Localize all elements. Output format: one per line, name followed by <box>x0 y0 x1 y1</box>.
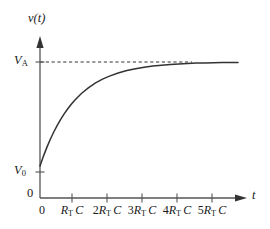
y-axis-arrowhead <box>36 36 43 48</box>
y-tick-label-v0: V0 <box>14 164 26 177</box>
x-tick-capacitance-symbol: C <box>181 203 191 217</box>
x-axis-arrowhead <box>235 194 247 201</box>
y-axis-label: v(t) <box>28 12 45 25</box>
x-tick-label-5: 5RT C <box>198 204 227 216</box>
x-axis-label: t <box>252 189 255 202</box>
response-curve <box>40 62 238 166</box>
x-tick-label-3: 3RT C <box>128 204 157 216</box>
x-axis-origin-label: 0 <box>39 204 45 216</box>
x-tick-label-1: RT C <box>61 204 84 216</box>
plot-canvas <box>0 0 270 229</box>
y-tick-label-va-sub: A <box>22 58 28 68</box>
y-axis-origin-label: 0 <box>27 187 33 200</box>
x-tick-label-4: 4RT C <box>163 204 192 216</box>
x-tick-capacitance-symbol: C <box>216 203 226 217</box>
y-tick-label-v0-sub: 0 <box>22 168 26 178</box>
y-tick-label-va-base: V <box>14 53 22 67</box>
y-tick-label-va: VA <box>14 54 28 67</box>
x-tick-capacitance-symbol: C <box>146 203 156 217</box>
x-tick-capacitance-symbol: C <box>73 203 83 217</box>
x-tick-label-2: 2RT C <box>93 204 122 216</box>
x-tick-capacitance-symbol: C <box>111 203 121 217</box>
rc-step-response-figure: v(t) t VA V0 0 0 RT C 2RT C 3RT C 4RT C … <box>0 0 270 229</box>
y-tick-label-v0-base: V <box>14 163 22 177</box>
